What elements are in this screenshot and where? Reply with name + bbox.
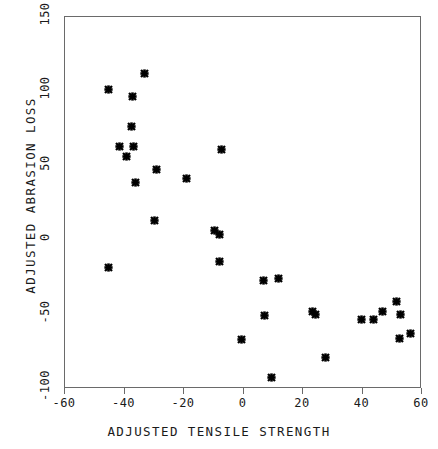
data-point xyxy=(395,334,404,343)
data-point xyxy=(369,315,378,324)
data-point xyxy=(357,315,366,324)
data-point xyxy=(259,276,268,285)
x-axis-tick xyxy=(243,388,244,394)
data-point xyxy=(392,297,401,306)
x-axis-tick xyxy=(64,388,65,394)
x-axis-tick xyxy=(421,388,422,394)
data-point xyxy=(311,310,320,319)
data-point xyxy=(115,142,124,151)
data-point xyxy=(215,257,224,266)
data-point xyxy=(150,216,159,225)
data-point xyxy=(260,311,269,320)
data-point xyxy=(308,307,317,316)
data-point xyxy=(237,335,246,344)
y-axis-label: ADJUSTED ABRASION LOSS xyxy=(23,16,38,376)
data-point xyxy=(217,145,226,154)
x-axis-tick-label: -60 xyxy=(34,396,94,410)
data-point xyxy=(122,152,131,161)
data-point xyxy=(104,263,113,272)
data-point xyxy=(131,178,140,187)
x-axis-tick-label: -20 xyxy=(153,396,213,410)
y-axis-tick-label: 150 xyxy=(38,0,52,29)
x-axis-tick-label: 40 xyxy=(332,396,392,410)
y-axis-tick-label: 100 xyxy=(38,73,52,103)
x-axis-tick xyxy=(302,388,303,394)
x-axis-tick-label: 0 xyxy=(213,396,273,410)
data-point xyxy=(128,92,137,101)
data-point xyxy=(210,226,219,235)
x-axis-tick-label: 60 xyxy=(391,396,438,410)
x-axis-tick xyxy=(124,388,125,394)
data-points-layer xyxy=(65,17,420,387)
x-axis-tick-label: 20 xyxy=(272,396,332,410)
x-axis-tick xyxy=(183,388,184,394)
y-axis-tick-label: -50 xyxy=(38,297,52,327)
x-axis-tick-label: -40 xyxy=(94,396,154,410)
y-axis-tick-label: 50 xyxy=(38,148,52,178)
x-axis-tick xyxy=(362,388,363,394)
data-point xyxy=(274,274,283,283)
data-point xyxy=(127,122,136,131)
plot-area xyxy=(64,16,421,388)
data-point xyxy=(152,165,161,174)
y-axis-tick-label: 0 xyxy=(38,222,52,252)
data-point xyxy=(140,69,149,78)
data-point xyxy=(104,85,113,94)
data-point xyxy=(321,353,330,362)
data-point xyxy=(182,174,191,183)
data-point xyxy=(378,307,387,316)
scatter-plot-figure: ADJUSTED ABRASION LOSS -100-50050100150 … xyxy=(0,0,438,449)
data-point xyxy=(396,310,405,319)
data-point xyxy=(267,373,276,382)
x-axis-label: ADJUSTED TENSILE STRENGTH xyxy=(0,424,438,439)
data-point xyxy=(129,142,138,151)
data-point xyxy=(406,329,415,338)
data-point xyxy=(215,230,224,239)
